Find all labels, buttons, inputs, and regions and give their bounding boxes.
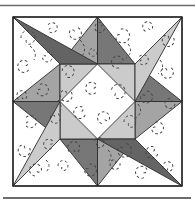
quilt-block-figure <box>0 0 195 204</box>
page <box>0 0 195 204</box>
quilt-pieces <box>13 17 182 186</box>
